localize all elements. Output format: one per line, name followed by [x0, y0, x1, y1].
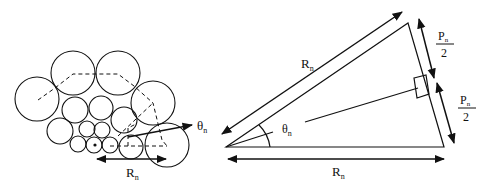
svg-text:Pn: Pn	[438, 29, 449, 44]
right-theta-label: θn	[282, 122, 292, 138]
half-p-bottom-arrow	[437, 83, 454, 143]
circle-packing	[15, 51, 189, 167]
svg-text:2: 2	[441, 46, 447, 60]
hyp-radius-arrow	[222, 12, 402, 134]
hyp-radius-label: Rn	[301, 56, 314, 73]
base-radius-label: Rn	[332, 164, 345, 181]
diagram-canvas: θn Rn Rn Rn θn Pn 2 Pn 2	[0, 0, 491, 186]
half-p-bottom-fraction: Pn 2	[458, 93, 476, 124]
left-theta-label: θn	[197, 118, 207, 135]
left-radius-label: Rn	[126, 165, 139, 182]
triangle	[226, 23, 444, 147]
center-dot	[93, 143, 96, 146]
svg-text:Pn: Pn	[460, 93, 471, 108]
half-p-top-fraction: Pn 2	[436, 29, 454, 60]
svg-text:2: 2	[463, 110, 469, 124]
theta-arrow	[128, 125, 192, 137]
